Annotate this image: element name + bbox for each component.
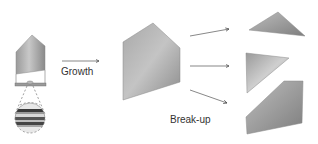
- crystal-growth-breakup-diagram: Growth Break-up: [0, 0, 318, 144]
- layered-inset-circle: [14, 103, 46, 133]
- seed-crystal: [16, 35, 45, 74]
- growth-label: Growth: [61, 66, 93, 77]
- fragment-1: [249, 12, 305, 36]
- fragment-3: [246, 81, 303, 134]
- breakup-arrows: [190, 29, 229, 103]
- breakup-label: Break-up: [170, 114, 211, 125]
- grown-crystal: [123, 23, 180, 100]
